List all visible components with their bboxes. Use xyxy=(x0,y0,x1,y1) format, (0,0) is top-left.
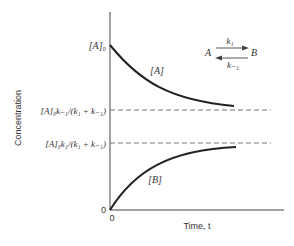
product-label: B xyxy=(251,47,257,58)
reverse-arrow-head xyxy=(215,56,222,61)
x-axis-title: Time, t xyxy=(183,221,211,231)
reverse-rate-label: k₋₁ xyxy=(227,60,239,70)
y-label-eq-a: [A]₀k₋₁/(k₁ + k₋₁) xyxy=(40,106,106,116)
curve-a xyxy=(110,45,234,106)
curve-label-b: [B] xyxy=(148,174,162,185)
kinetics-chart: [A]₀ [A]₀k₋₁/(k₁ + k₋₁) [A]₀k₁/(k₁ + k₋₁… xyxy=(0,0,294,246)
reaction-diagram: A B k₁ k₋₁ xyxy=(204,36,257,70)
forward-arrow-head xyxy=(242,46,249,51)
x-tick-zero: 0 xyxy=(109,213,114,223)
curve-label-a: [A] xyxy=(150,65,164,76)
forward-rate-label: k₁ xyxy=(226,36,233,46)
y-label-a0: [A]₀ xyxy=(89,40,107,51)
y-label-eq-b: [A]₀k₁/(k₁ + k₋₁) xyxy=(45,139,106,149)
y-tick-zero: 0 xyxy=(101,205,106,215)
curve-b xyxy=(110,147,236,210)
reactant-label: A xyxy=(204,47,212,58)
y-axis-title: Concentration xyxy=(13,90,23,146)
